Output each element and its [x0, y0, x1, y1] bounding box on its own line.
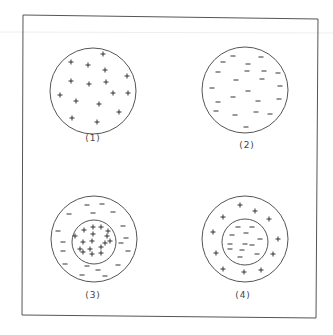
plus-charge-icon: [99, 245, 104, 250]
plus-charge-icon: [211, 230, 216, 235]
charge-distribution-diagram: (1)(2)(3)(4): [0, 0, 333, 335]
plus-charge-icon: [78, 247, 83, 252]
scan-artifact-line: [0, 32, 333, 33]
panel-label: (2): [239, 140, 255, 150]
plus-charge-icon: [70, 116, 75, 121]
plus-charge-icon: [214, 251, 219, 256]
plus-charge-icon: [221, 215, 226, 220]
panel-label: (1): [85, 133, 101, 143]
plus-charge-icon: [276, 237, 281, 242]
plus-charge-icon: [69, 79, 74, 84]
plus-charge-icon: [105, 234, 110, 239]
plus-charge-icon: [90, 239, 95, 244]
plus-charge-icon: [108, 239, 113, 244]
plus-charge-icon: [238, 203, 243, 208]
plus-charge-icon: [126, 91, 131, 96]
plus-charge-icon: [95, 120, 100, 125]
outer-sphere: [202, 47, 288, 133]
outer-sphere: [50, 48, 136, 134]
plus-charge-icon: [101, 52, 106, 57]
plus-charge-icon: [87, 82, 92, 87]
plus-charge-icon: [125, 74, 130, 79]
plus-charge-icon: [90, 252, 95, 257]
plus-charge-icon: [221, 267, 226, 272]
inner-sphere: [222, 219, 268, 265]
plus-charge-icon: [99, 251, 104, 256]
panels-group: (1)(2)(3)(4): [50, 47, 288, 300]
plus-charge-icon: [99, 225, 104, 230]
plus-charge-icon: [242, 270, 247, 275]
plus-charge-icon: [103, 241, 108, 246]
panel-3: (3): [51, 196, 137, 300]
plus-charge-icon: [86, 63, 91, 68]
plus-charge-icon: [81, 250, 86, 255]
panel-2: (2): [202, 47, 288, 150]
plus-charge-icon: [267, 217, 272, 222]
panel-label: (3): [85, 290, 101, 300]
plus-charge-icon: [97, 102, 102, 107]
outer-sphere: [202, 196, 288, 282]
plus-charge-icon: [271, 252, 276, 257]
plus-charge-icon: [111, 91, 116, 96]
plus-charge-icon: [253, 209, 258, 214]
plus-charge-icon: [259, 268, 264, 273]
plus-charge-icon: [58, 93, 63, 98]
plus-charge-icon: [117, 110, 122, 115]
plus-charge-icon: [103, 68, 108, 73]
outer-sphere: [51, 196, 137, 282]
panel-label: (4): [235, 290, 251, 300]
panel-4: (4): [202, 196, 288, 300]
plus-charge-icon: [74, 99, 79, 104]
plus-charge-icon: [106, 229, 111, 234]
plus-charge-icon: [69, 60, 74, 65]
plus-charge-icon: [91, 232, 96, 237]
plus-charge-icon: [104, 80, 109, 85]
plus-charge-icon: [88, 247, 93, 252]
panel-1: (1): [50, 48, 136, 143]
plus-charge-icon: [81, 240, 86, 245]
plus-charge-icon: [91, 225, 96, 230]
plus-charge-icon: [82, 228, 87, 233]
